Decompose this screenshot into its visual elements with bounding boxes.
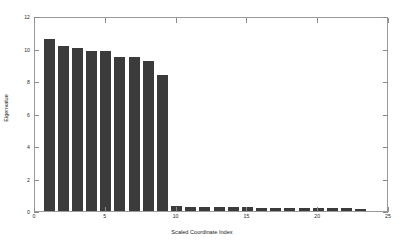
x-tick-label: 5	[95, 213, 115, 219]
y-tick	[34, 180, 39, 181]
y-tick-right	[383, 180, 388, 181]
x-tick-label: 20	[307, 213, 327, 219]
y-tick	[34, 115, 39, 116]
x-tick-top	[388, 18, 389, 23]
bar	[157, 75, 168, 212]
y-tick-right	[383, 50, 388, 51]
bar	[313, 208, 324, 211]
bar	[100, 51, 111, 211]
x-tick-top	[105, 18, 106, 23]
bar	[355, 209, 366, 211]
bar	[270, 208, 281, 211]
bar	[143, 61, 154, 211]
x-tick	[317, 207, 318, 212]
bar	[242, 207, 253, 211]
y-tick	[34, 147, 39, 148]
x-tick	[34, 207, 35, 212]
bar	[185, 207, 196, 211]
x-tick-top	[317, 18, 318, 23]
x-tick-label: 15	[236, 213, 256, 219]
x-tick	[388, 207, 389, 212]
bar	[341, 208, 352, 211]
x-tick-top	[34, 18, 35, 23]
y-tick	[34, 50, 39, 51]
y-axis-title: Eigenvalue	[3, 78, 9, 138]
bar	[214, 207, 225, 211]
bar	[114, 57, 125, 211]
bar	[284, 208, 295, 211]
bar	[86, 51, 97, 211]
y-tick-right	[383, 115, 388, 116]
x-tick-label: 10	[166, 213, 186, 219]
x-tick	[246, 207, 247, 212]
bar	[44, 39, 55, 211]
bar	[58, 46, 69, 211]
y-tick-right	[383, 147, 388, 148]
y-tick-label: 2	[4, 177, 30, 183]
bar	[299, 208, 310, 211]
bar	[228, 207, 239, 211]
x-tick-label: 0	[24, 213, 44, 219]
y-tick-label: 4	[4, 144, 30, 150]
bar	[327, 208, 338, 211]
figure: 024681012 0510152025 Scaled Coordinate I…	[0, 0, 404, 247]
bar	[199, 207, 210, 211]
y-tick-label: 12	[4, 14, 30, 20]
bar	[256, 208, 267, 211]
y-tick-right	[383, 82, 388, 83]
x-axis-title: Scaled Coordinate Index	[0, 229, 404, 235]
y-tick	[34, 82, 39, 83]
plot-area	[34, 17, 388, 212]
x-tick-top	[246, 18, 247, 23]
x-tick-top	[176, 18, 177, 23]
bar-series	[35, 18, 387, 211]
x-tick-label: 25	[378, 213, 398, 219]
y-tick-label: 10	[4, 47, 30, 53]
bar	[129, 57, 140, 211]
x-tick	[105, 207, 106, 212]
bar	[72, 48, 83, 211]
x-tick	[176, 207, 177, 212]
